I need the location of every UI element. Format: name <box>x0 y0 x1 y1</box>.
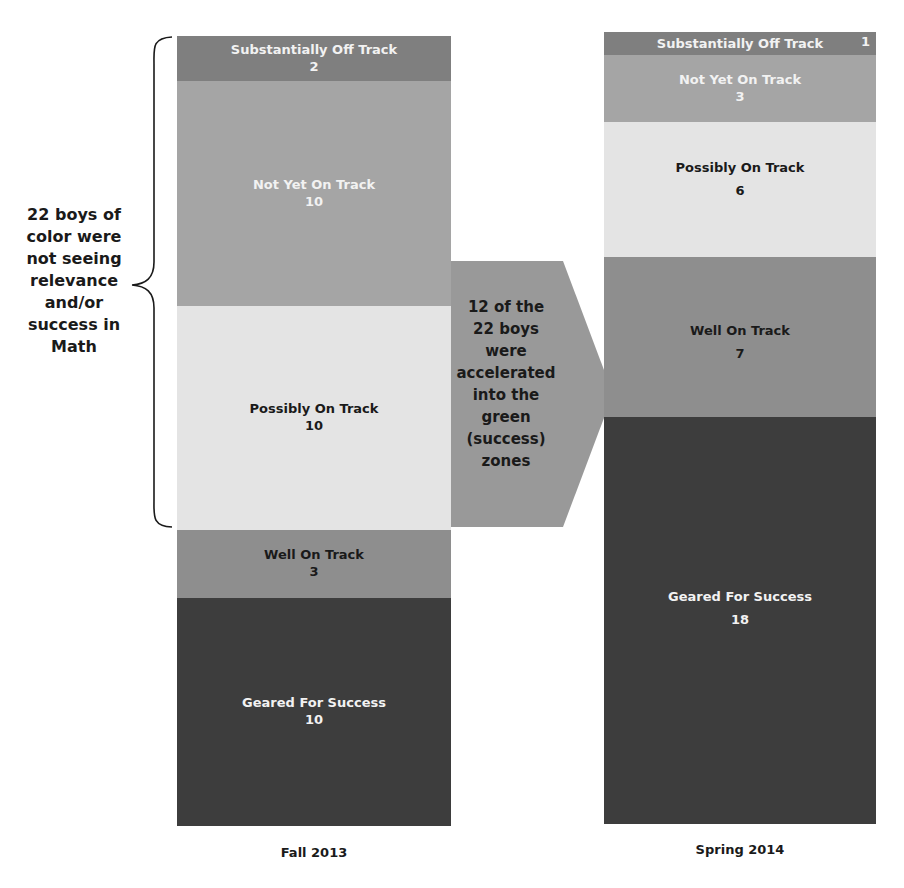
segment-value: 10 <box>305 417 323 435</box>
annotation-line: green <box>450 406 562 428</box>
segment-substantially-off-track: Substantially Off Track 1 <box>604 32 876 55</box>
x-axis-label-spring-2014: Spring 2014 <box>604 842 876 857</box>
segment-label: Well On Track <box>690 323 790 339</box>
segment-label: Geared For Success <box>668 589 812 605</box>
annotation-line: 22 boys <box>450 318 562 340</box>
segment-substantially-off-track: Substantially Off Track 2 <box>177 36 451 81</box>
segment-possibly-on-track: Possibly On Track 10 <box>177 306 451 530</box>
bar-spring-2014: Substantially Off Track 1 Not Yet On Tra… <box>604 32 876 824</box>
segment-label: Geared For Success <box>242 695 386 711</box>
segment-well-on-track: Well On Track 7 <box>604 257 876 417</box>
x-axis-label-fall-2013: Fall 2013 <box>177 845 451 860</box>
arrow-annotation: 12 of the 22 boys were accelerated into … <box>450 296 562 472</box>
segment-label: Not Yet On Track <box>679 72 801 88</box>
annotation-line: color were <box>14 226 134 248</box>
segment-label: Possibly On Track <box>250 401 379 417</box>
annotation-line: 12 of the <box>450 296 562 318</box>
segment-possibly-on-track: Possibly On Track 6 <box>604 122 876 257</box>
segment-value: 3 <box>735 88 744 106</box>
annotation-line: (success) <box>450 428 562 450</box>
segment-label: Possibly On Track <box>676 160 805 176</box>
segment-value: 7 <box>735 345 744 363</box>
annotation-line: zones <box>450 450 562 472</box>
segment-label: Substantially Off Track <box>657 36 823 52</box>
annotation-line: success in <box>14 314 134 336</box>
annotation-line: Math <box>14 336 134 358</box>
segment-not-yet-on-track: Not Yet On Track 3 <box>604 55 876 122</box>
segment-label: Substantially Off Track <box>231 42 397 58</box>
annotation-line: 22 boys of <box>14 204 134 226</box>
bar-fall-2013: Substantially Off Track 2 Not Yet On Tra… <box>177 36 451 826</box>
annotation-line: relevance <box>14 270 134 292</box>
segment-value: 10 <box>305 711 323 729</box>
segment-value: 2 <box>309 58 318 76</box>
segment-geared-for-success: Geared For Success 10 <box>177 598 451 826</box>
segment-value: 1 <box>861 34 870 49</box>
annotation-line: and/or <box>14 292 134 314</box>
segment-value: 3 <box>309 563 318 581</box>
segment-label: Not Yet On Track <box>253 177 375 193</box>
segment-value: 10 <box>305 193 323 211</box>
segment-not-yet-on-track: Not Yet On Track 10 <box>177 81 451 306</box>
annotation-line: into the <box>450 384 562 406</box>
segment-value: 6 <box>735 182 744 200</box>
brace-annotation: 22 boys of color were not seeing relevan… <box>14 204 134 358</box>
curly-brace-icon <box>132 37 172 527</box>
annotation-line: were <box>450 340 562 362</box>
annotation-line: not seeing <box>14 248 134 270</box>
annotation-line: accelerated <box>450 362 562 384</box>
segment-well-on-track: Well On Track 3 <box>177 530 451 598</box>
segment-geared-for-success: Geared For Success 18 <box>604 417 876 824</box>
segment-label: Well On Track <box>264 547 364 563</box>
segment-value: 18 <box>731 611 749 629</box>
